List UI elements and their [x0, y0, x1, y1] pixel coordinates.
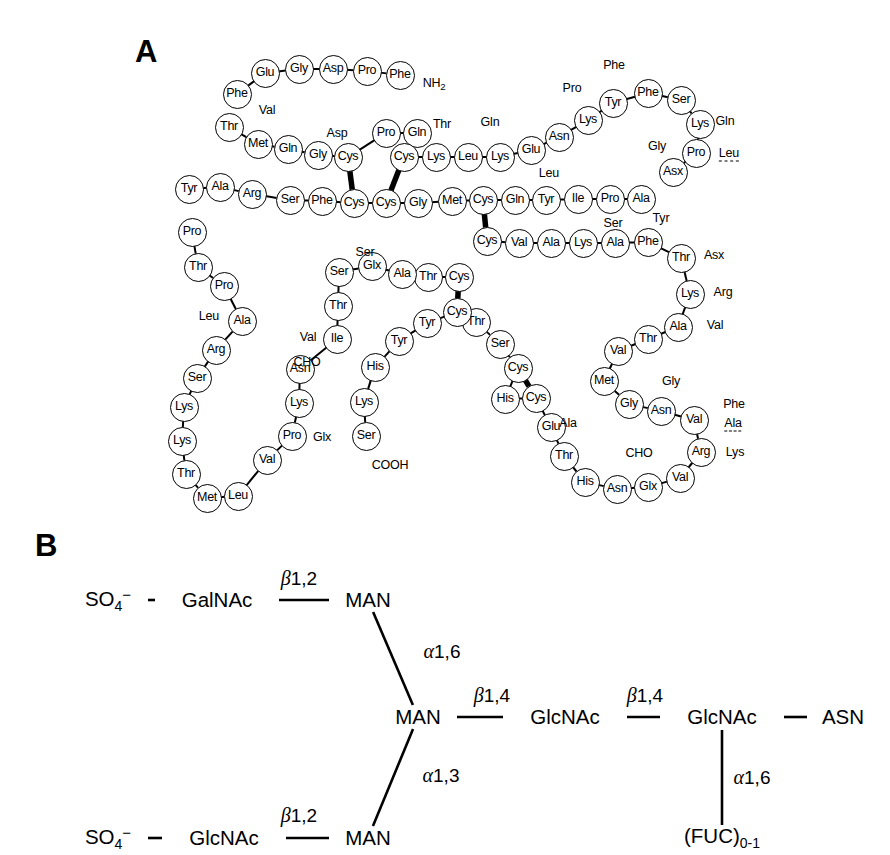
residue-circle: Pro — [596, 185, 625, 214]
glycan-node-label: MAN — [345, 826, 391, 849]
residue-circle: Thr — [324, 292, 353, 321]
glycan-node-label: (FUC) — [684, 824, 740, 847]
subscript: 0-1 — [740, 835, 760, 851]
glycan-node: SO4− — [85, 825, 131, 852]
residue-circle: Ala — [537, 229, 566, 258]
residue-free-label: Ala — [724, 417, 741, 432]
residue-circle: Phe — [634, 228, 663, 257]
residue-circle: Tyr — [599, 89, 628, 118]
residue-free-label: Asx — [704, 249, 724, 262]
residue-circle: Asx — [659, 158, 688, 187]
residue-circle: Asn — [647, 397, 676, 426]
disulfide-bond — [484, 213, 485, 227]
residue-free-label: Leu — [199, 310, 219, 323]
residue-free-label: Asp — [327, 127, 348, 140]
residue-circle: Lys — [569, 229, 598, 258]
greek-letter: α — [423, 764, 434, 786]
residue-circle: Val — [253, 446, 282, 475]
glycan-node: GlcNAc — [530, 707, 599, 728]
residue-circle: Ala — [228, 307, 257, 336]
residue-circle: Pro — [278, 422, 307, 451]
residue-free-label: Lys — [726, 446, 744, 459]
residue-circle: Tyr — [413, 309, 442, 338]
residue-circle: Cys — [334, 143, 363, 172]
residue-circle: Ile — [564, 185, 593, 214]
residue-free-label: Val — [259, 104, 276, 117]
glycan-node: GlcNAc — [189, 828, 258, 849]
glycan-node-label: SO — [85, 587, 115, 610]
residue-free-label: Arg — [714, 286, 733, 299]
subscript: 2 — [440, 81, 445, 92]
glycan-node-label: GalNAc — [182, 588, 253, 611]
linkage-position: 1,4 — [637, 685, 663, 706]
residue-free-label: Leu — [539, 167, 559, 180]
glycan-node-label: SO — [85, 825, 115, 848]
c-terminus-label: COOH — [372, 459, 409, 472]
residue-circle: Cys — [340, 189, 369, 218]
residue-circle: Met — [590, 367, 619, 396]
residue-circle: Leu — [224, 482, 253, 511]
linkage-label: α1,6 — [734, 767, 771, 787]
glycan-node-label: ASN — [822, 705, 864, 728]
residue-free-label: Thr — [433, 118, 451, 131]
linkage-position: 1,4 — [484, 685, 510, 706]
greek-letter: α — [424, 640, 435, 662]
residue-circle: Cys — [522, 384, 551, 413]
superscript-charge: − — [122, 824, 131, 841]
glycan-node: SO4− — [85, 587, 131, 614]
residue-circle: Phe — [308, 187, 337, 216]
residue-circle: Gly — [285, 55, 314, 84]
residue-circle: Ser — [325, 258, 354, 287]
greek-letter: β — [474, 684, 484, 706]
disulfide-bond — [391, 170, 399, 191]
panel-a-protein-sequence-map: A PheGluGlyAspProPheThrMetGlnGlyCysProGl… — [0, 0, 890, 520]
glycan-node: ASN — [822, 707, 864, 728]
residue-circle: Phe — [634, 79, 663, 108]
residue-circle: Cys — [504, 354, 533, 383]
residue-circle: Phe — [223, 80, 252, 109]
glycan-node: MAN — [345, 828, 391, 849]
glycan-node-label: GlcNAc — [687, 705, 756, 728]
residue-circle: Ile — [323, 325, 352, 354]
linkage-position: 1,2 — [291, 568, 317, 589]
linkage-position: 1,6 — [434, 641, 460, 662]
glycosylation-label: CHO — [625, 447, 652, 460]
residue-circle: Phe — [386, 61, 415, 90]
residue-circle: His — [571, 468, 600, 497]
residue-circle: Ser — [183, 364, 212, 393]
panel-b-bond-lines — [0, 520, 890, 855]
residue-free-label: Gln — [716, 115, 735, 128]
greek-letter: α — [734, 766, 745, 788]
residue-circle: Cys — [473, 227, 502, 256]
residue-free-label: Pro — [563, 82, 582, 95]
residue-free-label: Gly — [648, 140, 666, 153]
residue-free-label: Phe — [603, 59, 625, 72]
residue-free-label: Ser — [356, 246, 375, 259]
residue-free-label: Val — [707, 319, 724, 332]
residue-circle: Cys — [443, 298, 472, 327]
linkage-position: 1,2 — [291, 805, 317, 826]
residue-circle: Met — [193, 484, 222, 513]
residue-circle: Ser — [486, 330, 515, 359]
residue-circle: His — [491, 385, 520, 414]
linkage-position: 1,3 — [433, 765, 459, 786]
residue-circle: Arg — [238, 180, 267, 209]
glycan-node-label: MAN — [345, 588, 391, 611]
residue-circle: Cys — [390, 143, 419, 172]
residue-circle: Asn — [545, 123, 574, 152]
residue-circle: Cys — [469, 186, 498, 215]
glycosylation-label: CHO — [293, 356, 320, 369]
residue-circle: Lys — [350, 388, 379, 417]
residue-circle: Lys — [285, 389, 314, 418]
residue-circle: Ser — [352, 422, 381, 451]
residue-free-label: Val — [300, 331, 317, 344]
residue-circle: Thr — [172, 460, 201, 489]
residue-circle: Pro — [372, 119, 401, 148]
residue-circle: Gly — [304, 141, 333, 170]
linkage-label: β1,4 — [474, 685, 510, 705]
glycan-node: (FUC)0-1 — [684, 826, 760, 850]
residue-circle: Glx — [634, 473, 663, 502]
residue-free-label: Gln — [481, 116, 500, 129]
residue-circle: Thr — [634, 325, 663, 354]
panel-b-glycan-structure: B SO4−GalNAcMANMANGlcNAcGlcNAcASNSO4−Glc… — [0, 520, 890, 855]
